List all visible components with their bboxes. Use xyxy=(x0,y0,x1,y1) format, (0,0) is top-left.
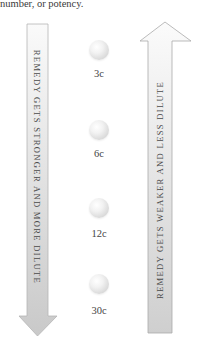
potency-label: 3c xyxy=(79,68,119,79)
potency-label: 12c xyxy=(79,228,119,239)
pill-icon xyxy=(89,120,109,140)
up-arrow-icon xyxy=(140,22,191,333)
up-arrow-label: REMEDY GETS WEAKER AND LESS DILUTE xyxy=(155,81,165,299)
pill-icon xyxy=(89,40,109,60)
pill-icon xyxy=(89,198,109,218)
down-arrow-label: REMEDY GETS STRONGER AND MORE DILUTE xyxy=(32,50,42,284)
potency-label: 30c xyxy=(79,305,119,316)
pill-icon xyxy=(89,274,109,294)
potency-label: 6c xyxy=(79,148,119,159)
